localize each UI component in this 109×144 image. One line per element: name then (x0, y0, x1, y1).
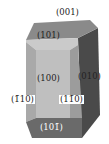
label-1m10: (11̄0) (59, 95, 84, 104)
label-010: (010) (78, 72, 101, 81)
face-m110 (26, 42, 36, 122)
label-101: (101) (37, 31, 60, 40)
face-100 (36, 50, 70, 118)
label-m110: (1̄10) (10, 95, 35, 104)
label-10m1: (101̄) (40, 123, 63, 132)
label-100: (100) (37, 74, 60, 83)
label-001: (001) (56, 8, 79, 17)
